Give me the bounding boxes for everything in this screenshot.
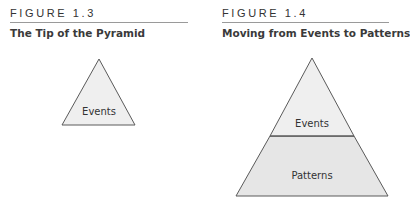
figure-1-3-pyramid: Events xyxy=(62,59,135,125)
figure-1-3-events-label: Events xyxy=(82,106,116,117)
patterns-level-shape xyxy=(236,136,388,196)
figure-1-4-patterns-label: Patterns xyxy=(291,170,332,181)
figure-1-4-events-label: Events xyxy=(295,118,329,129)
figure-1-4-pyramid: Events Patterns xyxy=(236,58,388,196)
